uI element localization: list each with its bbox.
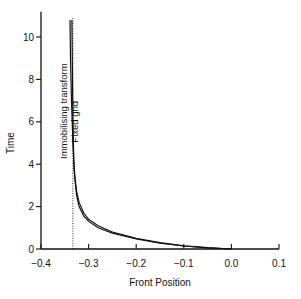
- annotation-fixed-grid: Fixed grid: [69, 101, 80, 143]
- annotation-immobilising-transform: Immobilising transform: [58, 63, 69, 159]
- y-tick-label: 6: [28, 116, 34, 127]
- x-axis-title: Front Position: [129, 277, 191, 288]
- y-tick-label: 10: [23, 32, 35, 43]
- y-axis-title: Time: [5, 132, 16, 154]
- y-tick-label: 2: [28, 201, 34, 212]
- y-tick-label: 4: [28, 159, 34, 170]
- series-immobilising-transform: [70, 20, 231, 249]
- chart: −0.4−0.3−0.2−0.10.00.10246810Front Posit…: [0, 0, 301, 299]
- x-tick-label: −0.1: [174, 258, 194, 269]
- x-tick-label: −0.2: [126, 258, 146, 269]
- x-tick-label: 0.0: [224, 258, 238, 269]
- y-tick-label: 0: [28, 244, 34, 255]
- series-fixed-grid: [72, 20, 232, 249]
- y-tick-label: 8: [28, 74, 34, 85]
- x-tick-label: 0.1: [272, 258, 286, 269]
- plot-series: [70, 18, 231, 249]
- x-tick-label: −0.3: [79, 258, 99, 269]
- x-tick-label: −0.4: [31, 258, 51, 269]
